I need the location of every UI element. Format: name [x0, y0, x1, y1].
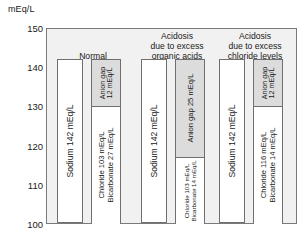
- y-axis-tick-150: 150: [1, 24, 43, 33]
- anion-base-label-line1: Chloride 103 mEq/L: [183, 163, 190, 218]
- anion-gap-label-0: Anion gap12 mEq/L: [99, 67, 114, 99]
- y-axis-tick-140: 140: [1, 63, 43, 72]
- y-axis-tick-130: 130: [1, 102, 43, 111]
- anion-base-label-2: Chloride 116 mEq/LBicarbonate 14 mEq/L: [259, 128, 277, 203]
- anion-gap-segment-2: Anion gap12 mEq/L: [254, 60, 282, 107]
- anion-bar-0: Anion gap12 mEq/LChloride 103 mEq/LBicar…: [91, 59, 121, 223]
- cation-bar-sodium-1: Sodium 142 mEq/L: [141, 59, 167, 223]
- bar-group-2: Acidosisdue to excesschloride levelsSodi…: [219, 29, 291, 223]
- y-axis-tick-110: 110: [1, 181, 43, 190]
- anion-base-label-line2: Bicarbonate 14 mEq/L: [268, 128, 277, 203]
- anion-gap-label-line1: Anion gap 25 mEq/L: [186, 74, 195, 143]
- anion-base-segment-2: Chloride 116 mEq/LBicarbonate 14 mEq/L: [254, 107, 282, 224]
- sodium-label-0: Sodium 142 mEq/L: [65, 104, 75, 177]
- gamblegram-figure: mEq/L 150140130120110100 NormalSodium 14…: [0, 0, 307, 240]
- y-axis-tick-100: 100: [1, 220, 43, 229]
- bars-wrapper-2: Sodium 142 mEq/LAnion gap12 mEq/LChlorid…: [219, 29, 291, 223]
- sodium-label-1: Sodium 142 mEq/L: [149, 104, 159, 177]
- bars-wrapper-0: Sodium 142 mEq/LAnion gap12 mEq/LChlorid…: [57, 29, 129, 223]
- cation-bar-sodium-0: Sodium 142 mEq/L: [57, 59, 83, 223]
- anion-bar-2: Anion gap12 mEq/LChloride 116 mEq/LBicar…: [253, 59, 283, 223]
- anion-gap-segment-0: Anion gap12 mEq/L: [92, 60, 120, 107]
- anion-base-segment-0: Chloride 103 mEq/LBicarbonate 27 mEq/L: [92, 107, 120, 224]
- anion-gap-label-2: Anion gap12 mEq/L: [261, 67, 276, 99]
- anion-base-label-line1: Chloride 103 mEq/L: [97, 132, 106, 199]
- anion-base-label-line2: Bicarbonate 14 mEq/L: [190, 160, 197, 221]
- anion-bar-1: Anion gap 25 mEq/LChloride 103 mEq/LBica…: [175, 59, 205, 223]
- bar-group-1: Acidosisdue to excessorganic acidsSodium…: [141, 29, 213, 223]
- anion-base-segment-1: Chloride 103 mEq/LBicarbonate 14 mEq/L: [176, 158, 204, 224]
- anion-gap-label-1: Anion gap 25 mEq/L: [186, 74, 195, 143]
- bar-group-0: NormalSodium 142 mEq/LAnion gap12 mEq/LC…: [57, 29, 129, 223]
- anion-base-label-1: Chloride 103 mEq/LBicarbonate 14 mEq/L: [183, 160, 198, 221]
- anion-base-label-line1: Chloride 116 mEq/L: [259, 132, 268, 199]
- plot-area: NormalSodium 142 mEq/LAnion gap12 mEq/LC…: [46, 28, 297, 224]
- y-axis-ticks: 150140130120110100: [0, 0, 43, 240]
- bars-wrapper-1: Sodium 142 mEq/LAnion gap 25 mEq/LChlori…: [141, 29, 213, 223]
- anion-gap-segment-1: Anion gap 25 mEq/L: [176, 60, 204, 158]
- anion-base-label-line2: Bicarbonate 27 mEq/L: [106, 128, 115, 203]
- y-axis-tick-120: 120: [1, 142, 43, 151]
- anion-base-label-0: Chloride 103 mEq/LBicarbonate 27 mEq/L: [97, 128, 115, 203]
- cation-bar-sodium-2: Sodium 142 mEq/L: [219, 59, 245, 223]
- anion-gap-label-line2: 12 mEq/L: [268, 67, 275, 99]
- sodium-label-2: Sodium 142 mEq/L: [227, 104, 237, 177]
- anion-gap-label-line2: 12 mEq/L: [106, 67, 113, 99]
